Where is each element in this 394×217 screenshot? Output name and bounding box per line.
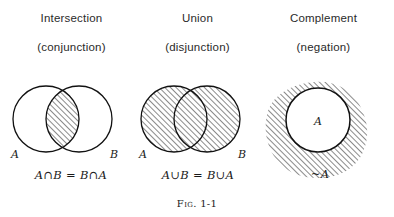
subheading-negation: (negation) — [258, 41, 389, 53]
union-shaded-circles — [141, 86, 240, 152]
formula-union: A∪B = B∪A — [161, 168, 234, 182]
diagram-complement: A ~A — [258, 78, 389, 196]
subheading-conjunction: (conjunction) — [6, 41, 137, 53]
formula-intersection: A∩B = B∩A — [34, 168, 107, 182]
label-set-a-inner: A — [313, 115, 322, 128]
figure-caption-number: 1-1 — [200, 198, 217, 209]
label-set-b: B — [237, 148, 246, 161]
diagram-intersection: A B A∩B = B∩A — [6, 78, 137, 196]
diagram-union: A B A∪B = B∪A — [132, 78, 263, 196]
heading-union: Union — [132, 12, 263, 24]
column-union: Union (disjunction) — [132, 0, 263, 53]
column-intersection: Intersection (conjunction) — [6, 0, 137, 53]
label-set-b: B — [109, 148, 118, 161]
venn-diagram-figure: Intersection (conjunction) A B A∩B = B∩A… — [0, 0, 394, 217]
heading-complement: Complement — [258, 12, 389, 24]
column-complement: Complement (negation) — [258, 0, 389, 53]
subheading-disjunction: (disjunction) — [132, 41, 263, 53]
label-set-a: A — [138, 148, 147, 161]
figure-caption: Fig. 1-1 — [0, 198, 394, 209]
label-set-a: A — [10, 148, 19, 161]
figure-caption-label: Fig. — [177, 198, 197, 209]
formula-complement: ~A — [311, 167, 330, 181]
heading-intersection: Intersection — [6, 12, 137, 24]
